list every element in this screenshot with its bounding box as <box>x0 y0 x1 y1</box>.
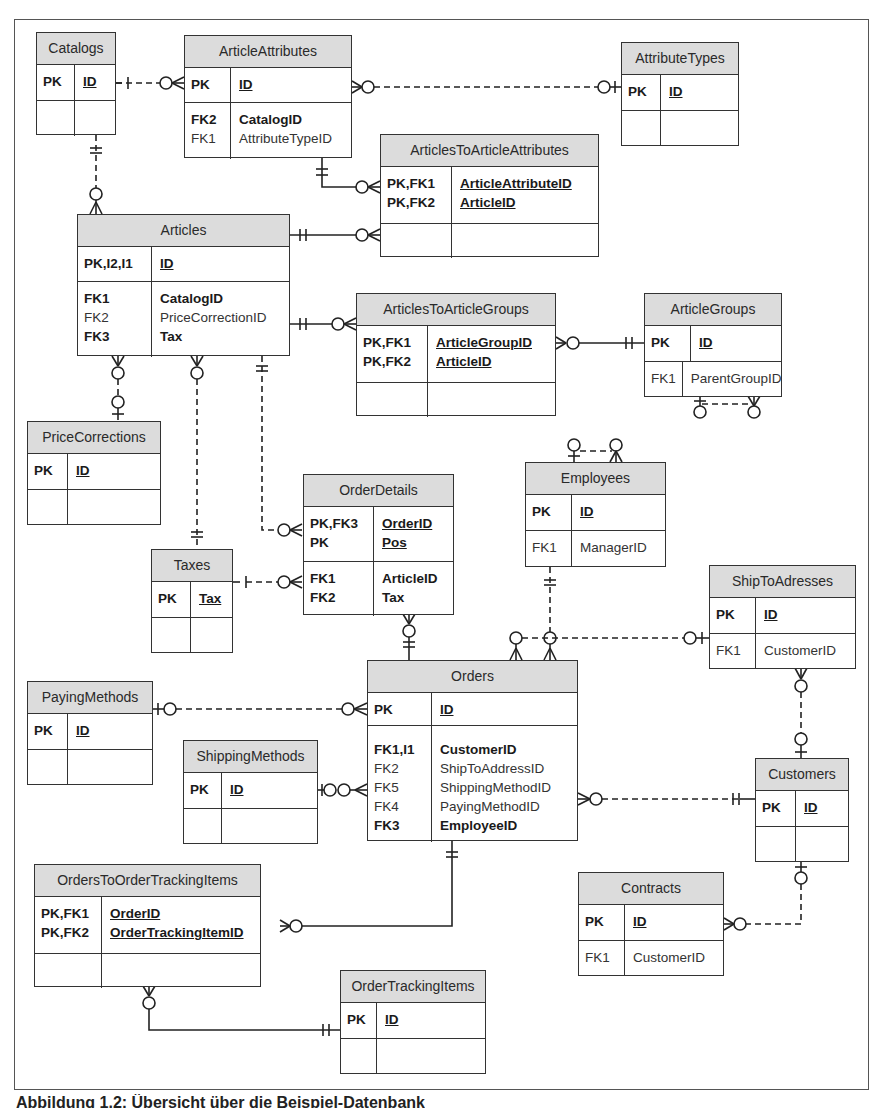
rel-shiptoadresses-customers <box>795 668 807 758</box>
pk-label: PK,FK1 <box>363 333 421 352</box>
fk-label: FK1 <box>310 569 367 588</box>
pk-column: ID <box>764 607 778 622</box>
entity-title: Employees <box>526 463 665 495</box>
pk-column: OrderID <box>382 514 445 533</box>
pk-column: ID <box>76 463 90 478</box>
fk-label: FK3 <box>84 327 145 346</box>
pk-label: PK <box>184 773 222 808</box>
column-catalogid: CatalogID <box>160 289 281 308</box>
entity-title: OrderTrackingItems <box>341 971 485 1003</box>
column-attributetypeid: AttributeTypeID <box>239 129 343 148</box>
entity-contracts[interactable]: Contracts PK ID FK1 CustomerID <box>578 872 724 976</box>
entity-pricecorrections[interactable]: PriceCorrections PK ID <box>27 421 161 525</box>
entity-title: ShipToAdresses <box>710 566 855 598</box>
entity-title: Orders <box>368 661 577 693</box>
rel-catalogs-articleattributes <box>116 77 184 89</box>
entity-orderdetails[interactable]: OrderDetails PK,FK3 PK OrderID Pos FK1 F… <box>303 474 454 615</box>
rel-taxes-orderdetails <box>233 576 302 588</box>
entity-articlestoarticleattributes[interactable]: ArticlesToArticleAttributes PK,FK1 PK,FK… <box>380 134 599 257</box>
rel-orders-orderstoordertrackingitems <box>280 840 458 932</box>
pk-column: ArticleID <box>460 193 590 212</box>
entity-employees[interactable]: Employees PK ID FK1 ManagerID <box>525 462 666 567</box>
rel-orders-orderdetails <box>403 614 415 660</box>
rel-payingmethods-orders <box>152 703 367 715</box>
entity-title: PayingMethods <box>28 682 152 714</box>
entity-articlegroups[interactable]: ArticleGroups PK ID FK1 ParentGroupID <box>644 293 782 397</box>
entity-taxes[interactable]: Taxes PK Tax <box>151 549 233 653</box>
pk-label: PK <box>185 68 231 102</box>
rel-articlestoarticlegroups-articlegroups <box>556 337 644 349</box>
pk-label: PK <box>756 791 796 826</box>
rel-employees-self <box>568 439 622 462</box>
rel-shiptoadresses-orders <box>510 632 709 660</box>
fk-label: FK1 <box>84 289 145 308</box>
pk-label: PK <box>622 75 661 110</box>
rel-catalogs-articles <box>90 135 102 214</box>
column-managerid: ManagerID <box>572 531 665 567</box>
pk-column: ID <box>239 77 253 92</box>
pk-column: ID <box>699 335 713 350</box>
pk-label: PK <box>37 65 75 100</box>
column-shiptoaddressid: ShipToAddressID <box>440 759 569 778</box>
entity-payingmethods[interactable]: PayingMethods PK ID <box>27 681 153 785</box>
rel-customers-contracts <box>724 860 807 930</box>
column-customerid: CustomerID <box>625 941 723 976</box>
fk-label: FK4 <box>374 797 425 816</box>
pk-column: ID <box>230 782 244 797</box>
pk-column: Pos <box>382 533 445 552</box>
fk-label: FK2 <box>374 759 425 778</box>
entity-shippingmethods[interactable]: ShippingMethods PK ID <box>183 740 318 844</box>
column-tax: Tax <box>382 588 445 607</box>
pk-column: ID <box>804 800 818 815</box>
rel-articles-taxes <box>191 356 203 549</box>
entity-title: OrdersToOrderTrackingItems <box>35 865 260 897</box>
entity-title: AttributeTypes <box>622 43 738 75</box>
pk-label: PK <box>28 714 68 749</box>
entity-shiptoadresses[interactable]: ShipToAdresses PK ID FK1 CustomerID <box>709 565 856 669</box>
entity-title: Catalogs <box>37 33 115 65</box>
rel-articles-articlestoarticlegroups <box>290 318 356 330</box>
column-tax: Tax <box>160 327 281 346</box>
fk-label: FK1,I1 <box>374 740 425 759</box>
entity-title: ArticlesToArticleAttributes <box>381 135 598 167</box>
entity-attributetypes[interactable]: AttributeTypes PK ID <box>621 42 739 146</box>
pk-column: ID <box>83 74 97 89</box>
entity-orderstoordertrackingitems[interactable]: OrdersToOrderTrackingItems PK,FK1 PK,FK2… <box>34 864 261 987</box>
entity-title: PriceCorrections <box>28 422 160 454</box>
entity-articleattributes[interactable]: ArticleAttributes PK ID FK2 FK1 CatalogI… <box>184 35 352 158</box>
rel-employees-orders <box>544 567 556 660</box>
entity-title: ArticleAttributes <box>185 36 351 68</box>
fk-label: FK2 <box>191 110 224 129</box>
pk-column: ID <box>440 702 454 717</box>
rel-articleattributes-attributetypes <box>352 81 621 93</box>
entity-ordertrackingitems[interactable]: OrderTrackingItems PK ID <box>340 970 486 1074</box>
pk-column: ID <box>385 1012 399 1027</box>
entity-articles[interactable]: Articles PK,I2,I1 ID FK1 FK2 FK3 Catalog… <box>77 214 290 356</box>
pk-label: PK,FK2 <box>363 352 421 371</box>
pk-label: PK,FK1 <box>387 174 445 193</box>
fk-label: FK1 <box>710 634 756 669</box>
pk-column: ArticleID <box>436 352 547 371</box>
pk-label: PK,FK1 <box>41 904 95 923</box>
entity-title: Articles <box>78 215 289 247</box>
pk-column: ID <box>633 914 647 929</box>
column-catalogid: CatalogID <box>239 110 343 129</box>
entity-orders[interactable]: Orders PK ID FK1,I1 FK2 FK5 FK4 FK3 Cust… <box>367 660 578 841</box>
fk-label: FK1 <box>191 129 224 148</box>
pk-column: OrderID <box>110 904 252 923</box>
entity-articlestoarticlegroups[interactable]: ArticlesToArticleGroups PK,FK1 PK,FK2 Ar… <box>356 293 556 416</box>
pk-label: PK,FK2 <box>41 923 95 942</box>
column-shippingmethodid: ShippingMethodID <box>440 778 569 797</box>
entity-catalogs[interactable]: Catalogs PK ID <box>36 32 116 135</box>
rel-articles-pricecorrections <box>112 356 124 420</box>
entity-customers[interactable]: Customers PK ID <box>755 758 849 862</box>
fk-label: FK1 <box>579 941 625 976</box>
pk-label: PK <box>579 905 625 940</box>
pk-label: PK <box>341 1003 377 1038</box>
column-customerid: CustomerID <box>440 740 569 759</box>
fk-label: FK2 <box>310 588 367 607</box>
figure-caption: Abbildung 1.2: Übersicht über die Beispi… <box>16 1094 425 1108</box>
pk-label: PK <box>526 495 572 530</box>
pk-column: ID <box>669 84 683 99</box>
column-customerid: CustomerID <box>756 634 855 669</box>
